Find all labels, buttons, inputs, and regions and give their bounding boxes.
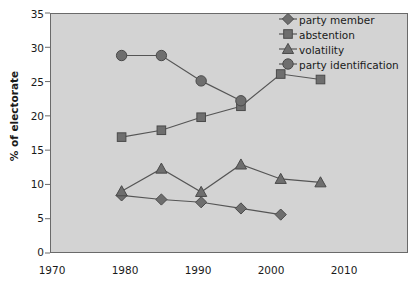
legend-marker-layer	[279, 13, 297, 69]
legend-marker-diamond-icon	[282, 13, 293, 24]
data-point	[196, 76, 206, 86]
data-point	[196, 197, 207, 208]
chart-canvas	[0, 0, 418, 292]
data-point	[117, 133, 126, 142]
legend-marker-circle-icon	[283, 59, 293, 69]
data-point	[156, 194, 167, 205]
data-series-layer	[116, 50, 326, 220]
data-point	[156, 50, 166, 60]
series-line	[122, 56, 241, 101]
series-volatility	[116, 159, 326, 197]
axis-tick-marks	[45, 13, 50, 253]
data-point	[275, 173, 286, 183]
data-point	[236, 96, 246, 106]
data-point	[116, 50, 126, 60]
data-point	[276, 70, 285, 79]
series-abstention	[117, 70, 324, 142]
legend-marker-square-icon	[284, 30, 293, 39]
series-party-identification	[116, 50, 246, 106]
data-point	[116, 186, 127, 196]
series-line	[122, 165, 321, 192]
series-line	[122, 74, 321, 137]
data-point	[156, 163, 167, 173]
data-point	[235, 203, 246, 214]
data-point	[316, 75, 325, 84]
data-point	[157, 126, 166, 135]
chart-figure: % of electorate 35 30 25 20 15 10 5 0 19…	[0, 0, 418, 292]
data-point	[196, 186, 207, 196]
data-point	[275, 209, 286, 220]
data-point	[197, 113, 206, 122]
data-point	[235, 159, 246, 169]
